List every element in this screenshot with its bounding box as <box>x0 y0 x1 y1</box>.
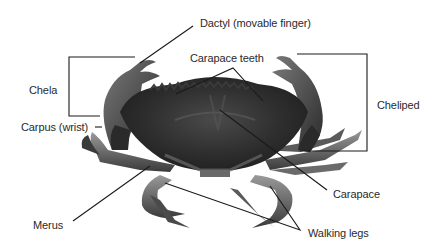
label-cheliped: Cheliped <box>377 99 420 111</box>
label-dactyl: Dactyl (movable finger) <box>200 17 311 29</box>
label-carpus: Carpus (wrist) <box>21 121 88 133</box>
label-carapace-teeth: Carapace teeth <box>190 52 264 64</box>
label-chela: Chela <box>29 84 57 96</box>
merus-leader-line <box>73 166 150 221</box>
label-walking-legs: Walking legs <box>308 227 369 239</box>
label-merus: Merus <box>33 219 63 231</box>
label-carapace: Carapace <box>333 188 380 200</box>
dactyl-leader-line <box>140 26 193 63</box>
crab-anatomy-diagram: Dactyl (movable finger) Chela Carpus (wr… <box>0 0 437 252</box>
